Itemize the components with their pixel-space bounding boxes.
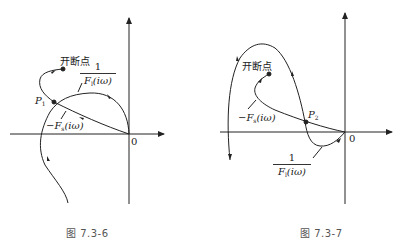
figure-caption: 图 7.3-6 <box>66 225 109 240</box>
fraction-denominator: Fl(iω) <box>80 73 116 87</box>
inverse-F-label: 1 Fl(iω) <box>273 153 311 178</box>
p-letter: P <box>35 95 42 106</box>
break-point-label: 开断点 <box>242 62 272 72</box>
inverse-F-label: 1 Fl(iω) <box>80 62 116 87</box>
arrow-icon <box>47 156 50 161</box>
intersection-label-P2: P2 <box>308 110 319 121</box>
den-argument: (iω) <box>287 166 306 177</box>
intersection-label-P1: P1 <box>35 96 46 107</box>
break-point-marker <box>267 72 271 76</box>
fraction-numerator: 1 <box>80 62 116 73</box>
origin-label: 0 <box>349 134 355 144</box>
arrow-icon <box>228 154 232 160</box>
leader-line <box>313 147 322 158</box>
fraction-denominator: Fl(iω) <box>273 164 311 178</box>
den-letter: F <box>278 166 285 177</box>
origin-label: 0 <box>131 137 137 147</box>
den-letter: F <box>84 75 91 86</box>
den-argument: (iω) <box>93 75 112 86</box>
leader-line <box>61 111 66 119</box>
neg-F-label: −Fs(iω) <box>238 113 276 124</box>
p-letter: P <box>308 109 315 120</box>
leader-line <box>248 100 256 109</box>
neg-F-text: −F <box>46 120 61 131</box>
neg-F-argument: (iω) <box>256 112 275 123</box>
figure-7-3-6 <box>10 18 164 204</box>
break-point-marker <box>61 67 65 71</box>
fraction-numerator: 1 <box>273 153 311 164</box>
figure-caption: 图 7.3-7 <box>300 225 343 240</box>
intersection-point-P1 <box>52 100 56 104</box>
neg-F-argument: (iω) <box>64 120 83 131</box>
p-subscript: 1 <box>42 100 46 107</box>
neg-F-text: −F <box>238 112 253 123</box>
p-subscript: 2 <box>315 114 319 121</box>
neg-F-label: −Fs(iω) <box>46 121 84 132</box>
inverse-F-curve <box>40 93 129 203</box>
arrow-icon <box>236 56 239 61</box>
